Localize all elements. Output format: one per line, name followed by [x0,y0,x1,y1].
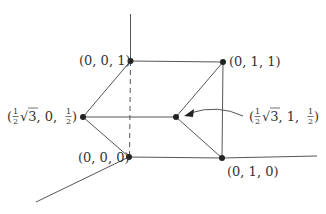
edge-001-h0h [83,61,131,117]
curved-arrow-line [190,109,243,116]
y-axis-line [222,156,317,158]
edge-001-011 [131,61,224,62]
dashed-edge-001-000 [130,61,131,157]
svg-text:√3, 1,: √3, 1, [262,109,299,124]
labels: (0, 0, 1) (0, 1, 1) (0, 0, 0) (0, 1, 0) … [7,53,319,179]
annotation-arrow [184,109,243,117]
edges [83,61,223,158]
svg-text:2: 2 [13,117,18,126]
node-0-1-1 [220,59,226,65]
svg-text:2: 2 [66,117,71,126]
label-0-0-0: (0, 0, 0) [78,150,130,165]
svg-text:(: ( [249,109,254,124]
label-0-1-0: (0, 1, 0) [227,164,279,179]
node-half-sqrt3-1-half [173,114,179,120]
edge-h1h-010 [176,117,222,158]
label-half-sqrt3-1-half: ( 1 2 √3, 1, 1 2 ) [249,107,319,126]
arrowhead-icon [184,109,194,117]
node-0-1-0 [219,155,225,161]
svg-text:1: 1 [66,107,71,116]
simplex-diagram: (0, 0, 1) (0, 1, 1) (0, 0, 0) (0, 1, 0) … [0,0,326,214]
label-0-0-1: (0, 0, 1) [79,53,131,68]
svg-text:2: 2 [255,117,260,126]
label-half-sqrt3-0-half: ( 1 2 √3, 0, 1 2 ) [7,107,77,126]
svg-text:(: ( [7,109,12,124]
svg-text:1: 1 [13,107,18,116]
svg-text:): ) [72,109,77,124]
label-0-1-1: (0, 1, 1) [229,54,281,69]
edge-000-010 [129,157,222,158]
node-half-sqrt3-0-half [80,114,86,120]
svg-text:√3, 0,: √3, 0, [20,109,57,124]
svg-text:2: 2 [308,117,313,126]
svg-text:1: 1 [255,107,260,116]
svg-text:): ) [314,109,319,124]
svg-text:1: 1 [308,107,313,116]
